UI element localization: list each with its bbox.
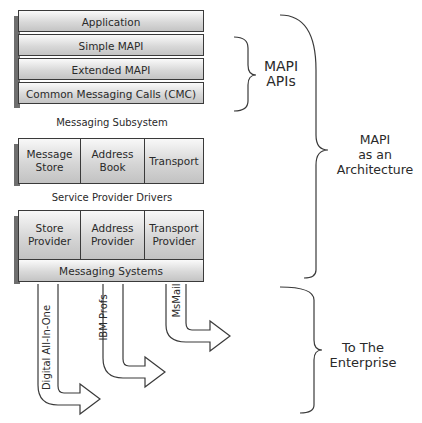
arrow-label-ibm: IBM Profs xyxy=(96,288,111,348)
arrow-ibm xyxy=(103,284,165,387)
arrow-label-msmail: MsMail xyxy=(169,276,184,326)
brace-architecture xyxy=(280,15,328,278)
brace-apis xyxy=(234,37,256,111)
label-mapi-architecture: MAPI as an Architecture xyxy=(328,132,422,177)
label-mapi-apis: MAPI APIs xyxy=(256,59,306,89)
brace-enterprise xyxy=(280,287,322,413)
arrow-label-digital: Digital All-In-One xyxy=(39,298,54,398)
label-enterprise: To The Enterprise xyxy=(318,340,408,370)
